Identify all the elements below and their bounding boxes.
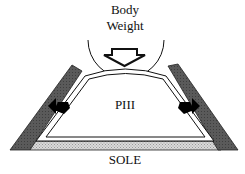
body-weight-label-line1: Body bbox=[100, 3, 150, 17]
piii-label: PIII bbox=[105, 98, 145, 112]
down-arrow-icon bbox=[104, 49, 145, 66]
sole-band bbox=[30, 141, 221, 150]
sole-label: SOLE bbox=[100, 153, 150, 167]
body-weight-label-line2: Weight bbox=[95, 19, 155, 33]
